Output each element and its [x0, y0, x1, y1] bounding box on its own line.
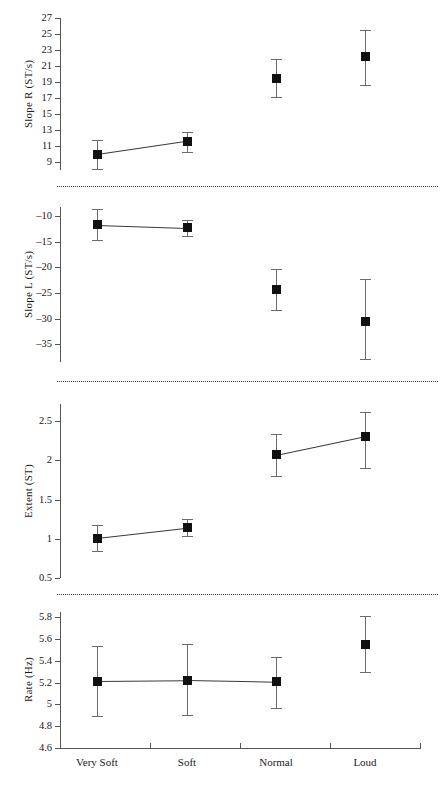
data-point-marker	[93, 677, 102, 686]
panel-rate: Rate (Hz)5.85.65.45.254.84.6	[0, 0, 446, 786]
data-point-marker	[272, 677, 281, 686]
connector-line	[187, 680, 276, 683]
y-tick-mark	[55, 617, 60, 618]
error-cap-upper	[182, 644, 193, 645]
y-tick-label: 5.8	[0, 612, 52, 623]
y-axis-line-rate	[60, 612, 61, 748]
error-cap-lower	[92, 716, 103, 717]
error-cap-upper	[271, 657, 282, 658]
y-tick-mark	[55, 726, 60, 727]
x-axis-category-label: Loud	[315, 756, 415, 768]
x-axis-category-label: Soft	[137, 756, 237, 768]
y-tick-label: 4.8	[0, 721, 52, 732]
x-axis-category-label: Very Soft	[47, 756, 147, 768]
y-tick-mark	[55, 683, 60, 684]
y-tick-label: 4.6	[0, 743, 52, 754]
x-tick-mark	[240, 743, 241, 749]
y-tick-mark	[55, 704, 60, 705]
data-point-marker	[361, 640, 370, 649]
error-cap-lower	[360, 672, 371, 673]
y-tick-mark	[55, 661, 60, 662]
x-axis-category-label: Normal	[226, 756, 326, 768]
y-tick-label: 5.2	[0, 678, 52, 689]
x-tick-mark	[330, 743, 331, 749]
y-tick-label: 5.4	[0, 656, 52, 667]
error-cap-lower	[271, 708, 282, 709]
error-cap-upper	[92, 646, 103, 647]
y-tick-mark	[55, 639, 60, 640]
connector-line	[97, 680, 187, 682]
y-tick-label: 5	[0, 699, 52, 710]
data-point-marker	[183, 676, 192, 685]
panel-separator	[57, 594, 438, 595]
x-tick-mark	[420, 743, 421, 749]
panel-separator	[57, 186, 438, 187]
x-tick-mark	[150, 743, 151, 749]
x-tick-mark	[60, 743, 61, 749]
panel-separator	[57, 381, 438, 382]
error-cap-lower	[182, 715, 193, 716]
y-tick-label: 5.6	[0, 634, 52, 645]
error-cap-upper	[360, 616, 371, 617]
vibrato-parameter-figure: Slope R (ST/s)2725232119171513119Slope L…	[0, 0, 446, 786]
